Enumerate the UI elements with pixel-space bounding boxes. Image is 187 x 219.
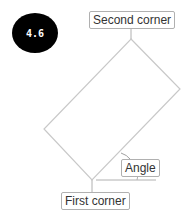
first-corner-label: First corner [61, 192, 130, 210]
second-corner-label: Second corner [89, 11, 175, 29]
rotated-rectangle-diagram [0, 0, 187, 219]
angle-label: Angle [121, 159, 160, 177]
